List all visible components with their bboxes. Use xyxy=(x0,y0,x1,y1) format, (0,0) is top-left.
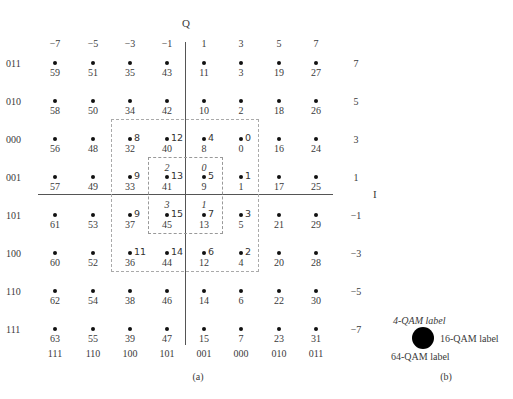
constellation-point xyxy=(202,137,206,141)
constellation-point xyxy=(277,289,281,293)
constellation-point xyxy=(202,213,206,217)
constellation-point xyxy=(53,327,57,331)
64qam-label: 1 xyxy=(239,182,244,192)
64qam-label: 40 xyxy=(162,144,172,154)
64qam-label: 51 xyxy=(88,68,98,78)
64qam-label: 27 xyxy=(311,68,321,78)
constellation-point xyxy=(91,213,95,217)
right-tick-label: 5 xyxy=(354,97,359,107)
64qam-label: 58 xyxy=(50,106,60,116)
bottom-gray-label: 001 xyxy=(197,349,212,359)
16qam-label: 13 xyxy=(171,171,183,181)
constellation-point xyxy=(165,289,169,293)
left-gray-label: 101 xyxy=(6,211,21,221)
16qam-label: 8 xyxy=(134,133,140,143)
64qam-label: 26 xyxy=(311,106,321,116)
64qam-label: 15 xyxy=(199,334,209,344)
top-tick-label: −1 xyxy=(162,39,173,49)
constellation-point xyxy=(277,213,281,217)
64qam-label: 29 xyxy=(311,220,321,230)
64qam-label: 61 xyxy=(50,220,60,230)
4qam-region-box xyxy=(148,157,223,234)
caption-b: (b) xyxy=(440,372,452,382)
64qam-label: 55 xyxy=(88,334,98,344)
constellation-point xyxy=(165,175,169,179)
constellation-point xyxy=(128,99,132,103)
constellation-point xyxy=(128,137,132,141)
legend-64qam-label: 64-QAM label xyxy=(391,352,450,362)
constellation-point xyxy=(165,251,169,255)
64qam-label: 39 xyxy=(125,334,135,344)
constellation-point xyxy=(202,251,206,255)
constellation-point xyxy=(128,61,132,65)
constellation-point xyxy=(165,99,169,103)
top-tick-label: 7 xyxy=(314,39,319,49)
64qam-label: 24 xyxy=(311,144,321,154)
left-gray-label: 011 xyxy=(6,59,21,69)
16qam-label: 11 xyxy=(134,247,146,257)
constellation-point xyxy=(91,289,95,293)
constellation-point xyxy=(239,251,243,255)
4qam-label: 3 xyxy=(165,200,170,210)
constellation-point xyxy=(239,99,243,103)
constellation-point xyxy=(128,175,132,179)
64qam-label: 0 xyxy=(239,144,244,154)
top-tick-label: −5 xyxy=(88,39,99,49)
constellation-point xyxy=(239,137,243,141)
top-tick-label: 5 xyxy=(277,39,282,49)
constellation-point xyxy=(128,327,132,331)
64qam-label: 34 xyxy=(125,106,135,116)
right-tick-label: 3 xyxy=(354,135,359,145)
top-tick-label: 3 xyxy=(239,39,244,49)
constellation-point xyxy=(277,175,281,179)
64qam-label: 18 xyxy=(274,106,284,116)
left-gray-label: 000 xyxy=(6,135,21,145)
64qam-label: 46 xyxy=(162,296,172,306)
constellation-point xyxy=(277,327,281,331)
bottom-gray-label: 110 xyxy=(86,349,101,359)
constellation-point xyxy=(314,137,318,141)
constellation-point xyxy=(202,289,206,293)
64qam-label: 54 xyxy=(88,296,98,306)
left-gray-label: 110 xyxy=(6,287,21,297)
top-tick-label: −7 xyxy=(50,39,61,49)
64qam-label: 43 xyxy=(162,68,172,78)
right-tick-label: 1 xyxy=(354,173,359,183)
constellation-point xyxy=(165,137,169,141)
constellation-point xyxy=(202,61,206,65)
64qam-label: 57 xyxy=(50,182,60,192)
constellation-point xyxy=(53,137,57,141)
4qam-label: 1 xyxy=(202,200,207,210)
constellation-point xyxy=(202,175,206,179)
64qam-label: 22 xyxy=(274,296,284,306)
constellation-point xyxy=(277,99,281,103)
64qam-label: 12 xyxy=(199,258,209,268)
constellation-point xyxy=(202,327,206,331)
64qam-label: 21 xyxy=(274,220,284,230)
constellation-point xyxy=(165,327,169,331)
constellation-point xyxy=(239,61,243,65)
64qam-label: 36 xyxy=(125,258,135,268)
64qam-label: 44 xyxy=(162,258,172,268)
right-tick-label: −3 xyxy=(351,249,362,259)
left-gray-label: 010 xyxy=(6,97,21,107)
right-tick-label: −5 xyxy=(351,287,362,297)
64qam-label: 47 xyxy=(162,334,172,344)
bottom-gray-label: 111 xyxy=(48,349,62,359)
constellation-point xyxy=(53,99,57,103)
64qam-label: 41 xyxy=(162,182,172,192)
64qam-label: 28 xyxy=(311,258,321,268)
64qam-label: 9 xyxy=(202,182,207,192)
16qam-label: 1 xyxy=(245,171,251,181)
right-tick-label: −1 xyxy=(351,211,362,221)
constellation-point xyxy=(91,61,95,65)
64qam-label: 62 xyxy=(50,296,60,306)
constellation-point xyxy=(239,175,243,179)
16qam-label: 15 xyxy=(171,209,183,219)
64qam-label: 63 xyxy=(50,334,60,344)
bottom-gray-label: 100 xyxy=(123,349,138,359)
constellation-point xyxy=(91,327,95,331)
16qam-label: 0 xyxy=(245,133,251,143)
constellation-point xyxy=(314,61,318,65)
constellation-point xyxy=(239,327,243,331)
